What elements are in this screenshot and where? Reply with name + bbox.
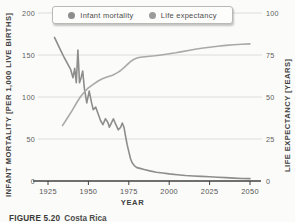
- life-expectancy-dot-icon: [149, 12, 156, 19]
- legend-item-life-expectancy: Life expectancy: [149, 11, 217, 20]
- legend-label-infant-mortality: Infant mortality: [80, 11, 133, 20]
- y-axis-label-left: INFANT MORTALITY [PER 1,000 LIVE BIRTHS]: [4, 13, 13, 197]
- x-tick-label: 2025: [201, 187, 219, 196]
- y-tick-label-left: 50: [26, 135, 35, 144]
- y-tick-label-right: 75: [266, 51, 275, 60]
- y-tick-label-left: 100: [22, 93, 35, 102]
- x-tick-label: 2000: [160, 187, 178, 196]
- x-tick-label: 1950: [80, 187, 98, 196]
- y-tick-label-right: 100: [266, 9, 279, 18]
- figure-caption-text: Costa Rica: [64, 214, 106, 222]
- x-tick-label: 2050: [241, 187, 259, 196]
- x-tick-label: 1975: [120, 187, 138, 196]
- figure-caption: FIGURE 5.20Costa Rica: [9, 214, 107, 222]
- infant-mortality-dot-icon: [68, 12, 75, 19]
- legend-label-life-expectancy: Life expectancy: [161, 11, 217, 20]
- figure-caption-tag: FIGURE 5.20: [9, 214, 60, 222]
- dual-axis-line-chart: 1925195019752000202520500501001502000255…: [0, 0, 295, 222]
- series-line-life-expectancy: [63, 44, 251, 126]
- y-tick-label-right: 50: [266, 93, 275, 102]
- y-tick-label-left: 0: [31, 177, 35, 186]
- x-axis-label: YEAR: [0, 198, 265, 207]
- y-tick-label-right: 0: [266, 177, 270, 186]
- y-axis-label-right: LIFE EXPECTANCY [YEARS]: [283, 59, 292, 172]
- series-line-infant-mortality: [55, 37, 251, 178]
- x-tick-label: 1925: [39, 187, 57, 196]
- y-tick-label-left: 150: [22, 51, 35, 60]
- y-tick-label-right: 25: [266, 135, 275, 144]
- chart-legend: Infant mortality Life expectancy: [52, 6, 233, 24]
- figure-page: { "figure": { "caption_tag": "FIGURE 5.2…: [0, 0, 295, 222]
- legend-item-infant-mortality: Infant mortality: [68, 11, 133, 20]
- y-tick-label-left: 200: [22, 9, 35, 18]
